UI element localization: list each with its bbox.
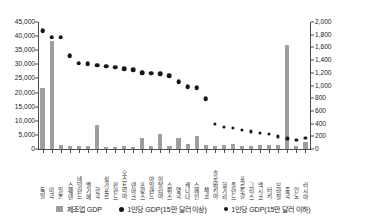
bar <box>222 145 226 149</box>
data-point <box>40 29 45 34</box>
right-axis-tick-label: 200 <box>315 133 326 140</box>
data-point <box>158 71 163 76</box>
bar <box>158 134 162 149</box>
right-axis-tick-mark <box>311 47 314 48</box>
left-axis-tick-label: 25,000 <box>15 75 35 82</box>
x-axis-tick-mark <box>160 150 161 153</box>
bar <box>50 41 54 149</box>
right-axis-tick-mark <box>311 72 314 73</box>
x-axis-tick-mark <box>242 150 243 153</box>
x-axis-tick-mark <box>224 150 225 153</box>
x-axis-tick-mark <box>142 150 143 153</box>
right-axis-tick-mark <box>311 136 314 137</box>
x-axis-tick-mark <box>115 150 116 153</box>
left-axis-tick-labels: 05,00010,00015,00020,00025,00030,00035,0… <box>0 22 35 150</box>
left-axis-tick-label: 5,000 <box>18 132 35 139</box>
legend-item[interactable]: 제조업 GDP <box>56 204 102 214</box>
data-point <box>185 84 190 89</box>
legend-label: 제조업 GDP <box>67 204 102 214</box>
data-point <box>295 139 298 142</box>
chart-legend: 제조업 GDP1인당 GDP(15만 달러 이상)1인당 GDP(15만 달러 … <box>0 196 367 222</box>
bar <box>249 146 253 149</box>
right-axis-tick-label: 2,000 <box>315 19 332 26</box>
x-axis-tick-mark <box>61 150 62 153</box>
right-axis-tick-mark <box>311 34 314 35</box>
right-axis-line <box>310 22 311 150</box>
right-axis-tick-labels: 02004006008001,0001,2001,4001,6001,8002,… <box>315 22 365 150</box>
x-axis-tick-mark <box>233 150 234 153</box>
bar <box>231 144 235 149</box>
left-axis-tick-mark <box>35 106 38 107</box>
data-point <box>131 68 136 73</box>
plot-region <box>38 22 310 149</box>
bar <box>40 88 44 149</box>
x-axis-tick-mark <box>206 150 207 153</box>
x-axis-tick-mark <box>169 150 170 153</box>
x-axis-tick-mark <box>133 150 134 153</box>
right-axis-tick-label: 0 <box>315 146 319 153</box>
bar <box>294 146 298 149</box>
data-point <box>213 122 216 125</box>
bar <box>86 146 90 149</box>
data-point <box>67 54 72 59</box>
x-axis-tick-mark <box>197 150 198 153</box>
x-axis-tick-mark <box>296 150 297 153</box>
bar <box>285 45 289 149</box>
left-axis-tick-label: 20,000 <box>15 89 35 96</box>
x-axis-category-label: 슬로바키아 <box>212 170 218 199</box>
bar <box>122 146 126 149</box>
x-axis-tick-mark <box>124 150 125 153</box>
data-point <box>49 35 54 40</box>
x-axis-tick-mark <box>97 150 98 153</box>
right-axis-tick-mark <box>311 149 314 150</box>
right-axis-tick-label: 1,600 <box>315 44 332 51</box>
right-axis-tick-label: 800 <box>315 95 326 102</box>
x-axis-tick-mark <box>52 150 53 153</box>
legend-small-dot-icon <box>224 207 228 211</box>
clipped-top-text-band: ᅟ ᅟ ᅟ ᅟ ᅟ ᅟ ᅟ ᅟ ᅟ ᅟ ᅟ ᅟ ᅟ ᅟ ᅟ <box>0 0 367 9</box>
left-axis-tick-label: 15,000 <box>15 103 35 110</box>
legend-bar-swatch-icon <box>56 206 63 212</box>
data-point <box>277 135 280 138</box>
data-point <box>304 136 307 139</box>
legend-item[interactable]: 1인당 GDP(15만 달러 이하) <box>224 204 311 214</box>
bar <box>149 146 153 149</box>
x-axis-category-label: 오스트리아 <box>121 170 127 199</box>
x-axis-tick-mark <box>88 150 89 153</box>
x-axis-tick-mark <box>70 150 71 153</box>
data-point <box>268 132 271 135</box>
bar <box>195 136 199 149</box>
x-axis-tick-mark <box>269 150 270 153</box>
bar <box>104 147 108 149</box>
x-axis-tick-mark <box>79 150 80 153</box>
bar <box>276 145 280 149</box>
bar <box>140 138 144 149</box>
x-axis-category-labels: 독일미국일본스웨덴네덜란드벨기에한국싱가포르핀란드오스트리아덴마크프랑스아일랜드… <box>38 154 311 199</box>
data-point <box>122 66 127 71</box>
left-axis-tick-label: 10,000 <box>15 117 35 124</box>
x-axis-tick-mark <box>305 150 306 153</box>
data-point <box>86 61 91 66</box>
x-axis-tick-mark <box>188 150 189 153</box>
left-axis-tick-mark <box>35 36 38 37</box>
data-point <box>104 64 109 69</box>
right-axis-tick-label: 600 <box>315 108 326 115</box>
left-axis-tick-label: 30,000 <box>15 61 35 68</box>
legend-item[interactable]: 1인당 GDP(15만 달러 이상) <box>119 204 207 214</box>
x-axis-tick-mark <box>278 150 279 153</box>
right-axis-tick-mark <box>311 60 314 61</box>
left-axis-tick-mark <box>35 50 38 51</box>
x-axis-tick-mark <box>43 150 44 153</box>
left-axis-tick-mark <box>35 120 38 121</box>
data-point <box>149 71 154 76</box>
bar <box>113 147 117 149</box>
data-point <box>249 130 252 133</box>
left-axis-tick-label: 35,000 <box>15 47 35 54</box>
bar <box>77 146 81 149</box>
bar <box>240 146 244 149</box>
bar <box>167 146 171 149</box>
bar <box>131 147 135 149</box>
data-point <box>140 71 145 76</box>
legend-label: 1인당 GDP(15만 달러 이상) <box>127 204 206 214</box>
data-point <box>203 97 208 102</box>
